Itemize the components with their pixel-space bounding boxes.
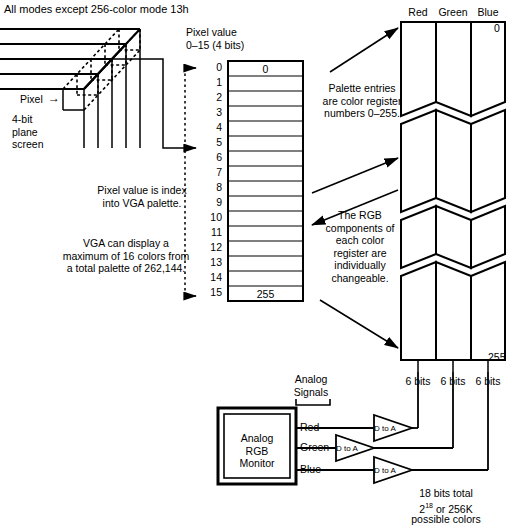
register-bottom-index: 255 [488, 351, 506, 364]
palette-row-index-1: 1 [204, 77, 222, 88]
palette-row-index-15: 15 [204, 287, 222, 298]
palette-row-index-11: 11 [204, 227, 222, 238]
plane-screen-label: 4-bit plane screen [12, 113, 44, 151]
palette-row-index-10: 10 [204, 212, 222, 223]
palette-row-index-14: 14 [204, 272, 222, 283]
palette-row-index-0: 0 [204, 62, 222, 73]
register-header-blue: Blue [469, 6, 507, 19]
palette-last-cell-value: 255 [228, 288, 303, 300]
pixel-value-bits-label: Pixel value 0–15 (4 bits) [186, 26, 244, 51]
bits-total-exponent: 18 [425, 502, 433, 509]
palette-row-index-7: 7 [204, 167, 222, 178]
dac-label-blue: D to A [364, 465, 406, 478]
pixel-to-palette-connector [112, 59, 196, 148]
palette-row-index-2: 2 [204, 92, 222, 103]
palette-row-index-6: 6 [204, 152, 222, 163]
signal-label-red: Red [300, 421, 319, 434]
palette-row-index-3: 3 [204, 107, 222, 118]
pixel-arrow-icon: → [48, 92, 60, 105]
color-register-columns-graphic [401, 22, 505, 360]
vga-capacity-note: VGA can display a maximum of 16 colors f… [26, 237, 226, 275]
bits-total-line3: possible colors [387, 513, 505, 526]
palette-entries-note: Palette entries are color register numbe… [310, 82, 414, 120]
signal-label-green: Green [300, 441, 329, 454]
register-header-green: Green [434, 6, 472, 19]
monitor-label: Analog RGB Monitor [224, 432, 290, 470]
dac-label-red: D to A [364, 423, 406, 436]
register-top-index: 0 [494, 22, 500, 35]
register-bit-stubs [418, 360, 488, 372]
palette-table-graphic [228, 61, 303, 301]
bit-label-blue: 6 bits [463, 375, 509, 388]
palette-row-index-9: 9 [204, 197, 222, 208]
pixel-index-note: Pixel value is index into VGA palette. [62, 184, 222, 209]
palette-row-index-8: 8 [204, 182, 222, 193]
diagram-title: All modes except 256-color mode 13h [4, 3, 189, 16]
analog-signals-bracket [296, 399, 330, 405]
palette-first-cell-value: 0 [228, 63, 303, 75]
dac-label-green: D to A [326, 443, 368, 456]
palette-row-index-13: 13 [204, 257, 222, 268]
signal-label-blue: Blue [300, 463, 321, 476]
palette-row-index-5: 5 [204, 137, 222, 148]
palette-row-index-4: 4 [204, 122, 222, 133]
palette-to-register-arrows [312, 28, 398, 348]
register-header-red: Red [399, 6, 437, 19]
rgb-components-note: The RGB components of each color registe… [312, 209, 408, 284]
palette-row-index-12: 12 [204, 242, 222, 253]
pixel-label: Pixel [20, 93, 43, 106]
bits-total-line1: 18 bits total [387, 487, 505, 500]
analog-signals-label: Analog Signals [282, 373, 340, 398]
